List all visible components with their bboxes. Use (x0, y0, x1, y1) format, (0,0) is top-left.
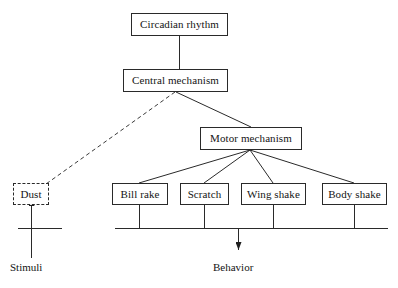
node-label: Central mechanism (132, 75, 219, 86)
diagram-connector-layer (0, 0, 398, 288)
node-label: Dust (20, 189, 41, 200)
label-behavior: Behavior (213, 262, 253, 273)
edge-central-to-dust (46, 92, 175, 184)
node-body-shake: Body shake (322, 183, 387, 205)
node-label: Bill rake (120, 189, 159, 200)
node-scratch: Scratch (180, 183, 229, 205)
node-central-mechanism: Central mechanism (123, 69, 228, 92)
node-label: Circadian rhythm (140, 19, 219, 30)
node-label: Body shake (328, 189, 381, 200)
edge-motor-to-wing-shake (250, 150, 273, 183)
node-circadian-rhythm: Circadian rhythm (131, 13, 228, 36)
node-dust: Dust (13, 183, 49, 205)
node-bill-rake: Bill rake (112, 183, 168, 205)
node-motor-mechanism: Motor mechanism (200, 127, 302, 150)
diagram-root: Circadian rhythm Central mechanism Motor… (0, 0, 398, 288)
node-wing-shake: Wing shake (241, 183, 306, 205)
edge-central-to-motor (176, 92, 251, 127)
edge-motor-to-scratch (204, 150, 250, 183)
edge-motor-to-body-shake (250, 150, 354, 183)
node-label: Motor mechanism (210, 133, 292, 144)
edge-motor-to-bill-rake (139, 150, 250, 183)
label-stimuli: Stimuli (10, 262, 42, 273)
node-label: Scratch (188, 189, 222, 200)
node-label: Wing shake (247, 189, 300, 200)
